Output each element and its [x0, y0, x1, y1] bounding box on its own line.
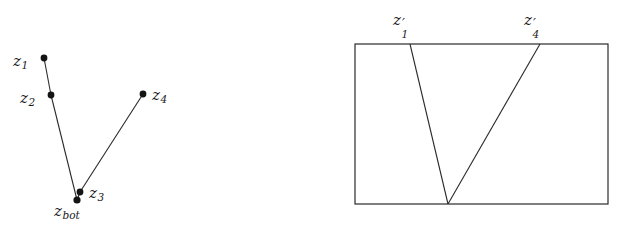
label-z1: z1: [13, 54, 28, 71]
segment-z1-z2: [44, 58, 51, 95]
label-z4-prime: z4′: [524, 13, 532, 28]
label-z1-subscript: 1: [21, 59, 28, 71]
label-z4-prime-base: z: [524, 11, 532, 29]
left-diagram-group: [41, 55, 147, 204]
label-z4-subscript: 4: [160, 93, 167, 105]
segment-z1prime-vertex: [410, 44, 448, 204]
figure-canvas: z1 z2 zbot z3 z4 z1′ z4′: [0, 0, 621, 236]
segment-z2-zbot: [51, 95, 77, 200]
label-z1-base: z: [13, 52, 21, 70]
label-z1-prime-mark: ′: [402, 17, 405, 30]
label-zbot: zbot: [54, 204, 80, 221]
label-z3-base: z: [89, 184, 97, 202]
point-marker-zbot: [73, 196, 80, 203]
point-marker-z3: [77, 189, 84, 196]
bounding-rectangle: [355, 44, 608, 204]
point-marker-z4: [140, 91, 147, 98]
label-z3-subscript: 3: [97, 191, 104, 203]
point-marker-z1: [41, 55, 48, 62]
label-z4-prime-mark: ′: [533, 17, 536, 30]
label-z4: z4: [152, 88, 167, 105]
label-z2-subscript: 2: [28, 96, 35, 108]
segment-vertex-z4prime: [448, 44, 540, 204]
label-z3: z3: [89, 186, 104, 203]
label-z2-base: z: [20, 89, 28, 107]
label-z1-prime: z1′: [393, 13, 401, 28]
right-diagram-group: [355, 44, 608, 204]
label-zbot-subscript: bot: [62, 209, 80, 221]
segment-z3-z4: [80, 94, 143, 192]
label-zbot-base: z: [54, 202, 62, 220]
label-z1-prime-base: z: [393, 11, 401, 29]
point-marker-z2: [48, 92, 55, 99]
label-z4-base: z: [152, 86, 160, 104]
label-z2: z2: [20, 91, 35, 108]
